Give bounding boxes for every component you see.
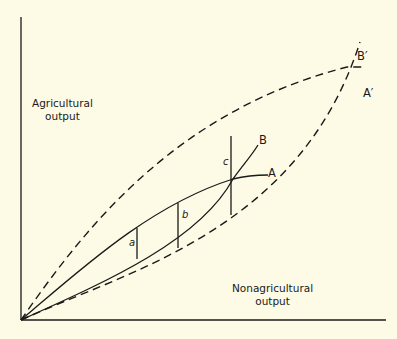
x-axis-title: Nonagricultural output	[232, 282, 313, 308]
y-axis-title-line2: output	[32, 110, 93, 123]
x-axis-title-line1: Nonagricultural	[232, 282, 313, 295]
curve-b-prime	[21, 42, 360, 320]
segment-label-b: b	[182, 208, 188, 221]
y-axis-title: Agricultural output	[32, 97, 93, 123]
curve-b	[21, 145, 258, 320]
segment-label-c: c	[223, 155, 229, 168]
curve-label-a-prime: A′	[363, 87, 373, 100]
segment-label-a: a	[129, 236, 135, 249]
curve-label-b-prime: B′	[357, 50, 368, 63]
y-axis-title-line1: Agricultural	[32, 97, 93, 110]
curve-label-b: B	[259, 134, 267, 147]
diagram-canvas	[0, 0, 397, 339]
x-axis-title-line2: output	[232, 295, 313, 308]
curve-label-a: A	[268, 167, 276, 180]
